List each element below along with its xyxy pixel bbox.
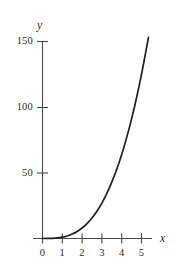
chart-figure: 150 100 50 0 1 2 3 4 5 y x (0, 0, 176, 270)
x-tick-label-2: 2 (72, 248, 92, 259)
x-tick-label-1: 1 (52, 248, 72, 259)
x-tick-label-0: 0 (33, 248, 53, 259)
y-tick-label-150: 150 (4, 36, 33, 47)
y-tick-label-50: 50 (4, 168, 33, 179)
x-tick-label-4: 4 (112, 248, 132, 259)
data-curve (43, 37, 149, 238)
y-tick-label-100: 100 (4, 102, 33, 113)
x-axis-label: x (160, 233, 165, 245)
x-tick-label-5: 5 (132, 248, 152, 259)
y-axis-label: y (37, 20, 42, 32)
x-tick-label-3: 3 (92, 248, 112, 259)
